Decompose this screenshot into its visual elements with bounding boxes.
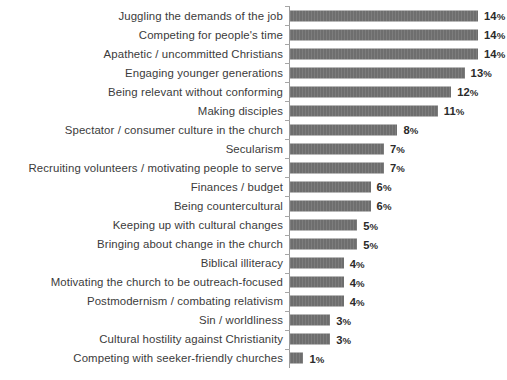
axis-tick — [285, 63, 290, 64]
percent-sign: % — [497, 30, 506, 41]
bar-row: Spectator / consumer culture in the chur… — [0, 120, 507, 139]
bar — [290, 29, 478, 40]
axis-tick — [285, 101, 290, 102]
bar-row: Recruiting volunteers / motivating peopl… — [0, 158, 507, 177]
axis-tick — [285, 216, 290, 217]
bar-and-value: 14% — [290, 48, 505, 59]
bar — [290, 258, 344, 269]
bar-and-value: 5% — [290, 239, 378, 250]
axis-tick — [285, 196, 290, 197]
axis-tick — [285, 254, 290, 255]
bar-value-label: 3% — [336, 314, 351, 326]
bar — [290, 162, 384, 173]
axis-tick — [285, 139, 290, 140]
percent-sign: % — [383, 182, 392, 193]
percent-sign: % — [356, 258, 365, 269]
percent-sign: % — [497, 49, 506, 60]
bar-category-label: Juggling the demands of the job — [118, 9, 283, 22]
bar-row: Postmodernism / combating relativism4% — [0, 292, 507, 311]
percent-sign: % — [316, 353, 325, 364]
bar-value-label: 14% — [484, 29, 505, 41]
bar-row: Keeping up with cultural changes5% — [0, 216, 507, 235]
bar-value-number: 14 — [484, 29, 497, 41]
bar-value-label: 7% — [390, 143, 405, 155]
axis-tick — [285, 44, 290, 45]
bar-value-label: 4% — [350, 276, 365, 288]
bar-row: Apathetic / uncommitted Christians14% — [0, 44, 507, 63]
axis-tick — [285, 235, 290, 236]
bar-row: Juggling the demands of the job14% — [0, 6, 507, 25]
axis-tick — [285, 292, 290, 293]
bar-category-label: Motivating the church to be outreach-foc… — [51, 276, 283, 289]
bar-and-value: 6% — [290, 200, 392, 211]
bar-row: Competing with seeker-friendly churches1… — [0, 349, 507, 368]
bar-row: Cultural hostility against Christianity3… — [0, 330, 507, 349]
bar-value-label: 5% — [363, 219, 378, 231]
bar-and-value: 4% — [290, 258, 365, 269]
bar — [290, 353, 303, 364]
bar-row: Being countercultural6% — [0, 196, 507, 215]
bar-row: Making disciples11% — [0, 101, 507, 120]
bar-row: Finances / budget6% — [0, 177, 507, 196]
bar-value-number: 14 — [484, 10, 497, 22]
bar-and-value: 7% — [290, 143, 405, 154]
bar-and-value: 13% — [290, 67, 492, 78]
percent-sign: % — [470, 87, 479, 98]
bar-category-label: Competing with seeker-friendly churches — [73, 352, 283, 365]
bar — [290, 315, 330, 326]
bar-row: Bringing about change in the church5% — [0, 235, 507, 254]
bar-category-label: Bringing about change in the church — [97, 238, 283, 251]
axis-tick — [285, 349, 290, 350]
axis-tick — [285, 120, 290, 121]
bar-value-label: 14% — [484, 48, 505, 60]
bar — [290, 181, 371, 192]
bar-value-label: 7% — [390, 162, 405, 174]
bar-category-label: Spectator / consumer culture in the chur… — [65, 123, 283, 136]
bar-category-label: Competing for people's time — [139, 28, 283, 41]
percent-sign: % — [369, 239, 378, 250]
bar-value-number: 14 — [484, 48, 497, 60]
bar-and-value: 14% — [290, 29, 505, 40]
bar-value-label: 3% — [336, 333, 351, 345]
bar-and-value: 1% — [290, 353, 324, 364]
axis-tick — [285, 158, 290, 159]
bar-value-label: 14% — [484, 10, 505, 22]
bar-value-label: 13% — [471, 67, 492, 79]
percent-sign: % — [383, 201, 392, 212]
bar-row: Secularism7% — [0, 139, 507, 158]
bar-value-number: 13 — [471, 67, 484, 79]
axis-tick — [285, 25, 290, 26]
bar-value-label: 4% — [350, 295, 365, 307]
percent-sign: % — [396, 163, 405, 174]
bar-category-label: Biblical illiteracy — [201, 257, 283, 270]
bar-category-label: Finances / budget — [191, 180, 283, 193]
bar-category-label: Recruiting volunteers / motivating peopl… — [29, 161, 283, 174]
bar-value-label: 6% — [377, 200, 392, 212]
bar-row: Engaging younger generations13% — [0, 63, 507, 82]
bar-and-value: 11% — [290, 105, 464, 116]
bar-category-label: Cultural hostility against Christianity — [99, 333, 283, 346]
bar — [290, 220, 357, 231]
bar-value-label: 5% — [363, 238, 378, 250]
bar — [290, 277, 344, 288]
bar-value-label: 12% — [457, 86, 478, 98]
axis-tick — [285, 82, 290, 83]
bar — [290, 239, 357, 250]
bar-value-label: 4% — [350, 257, 365, 269]
percent-sign: % — [483, 68, 492, 79]
bar-row: Biblical illiteracy4% — [0, 254, 507, 273]
bar-value-label: 6% — [377, 181, 392, 193]
percent-sign: % — [343, 334, 352, 345]
bar — [290, 143, 384, 154]
bar-row: Competing for people's time14% — [0, 25, 507, 44]
bar-category-label: Keeping up with cultural changes — [113, 219, 283, 232]
bar-category-label: Secularism — [226, 142, 283, 155]
bar-category-label: Being relevant without conforming — [108, 85, 283, 98]
bar-and-value: 4% — [290, 296, 365, 307]
bar — [290, 124, 397, 135]
axis-tick — [285, 273, 290, 274]
bar-category-label: Postmodernism / combating relativism — [87, 295, 283, 308]
bar — [290, 105, 438, 116]
axis-tick — [285, 6, 290, 7]
percent-sign: % — [356, 277, 365, 288]
